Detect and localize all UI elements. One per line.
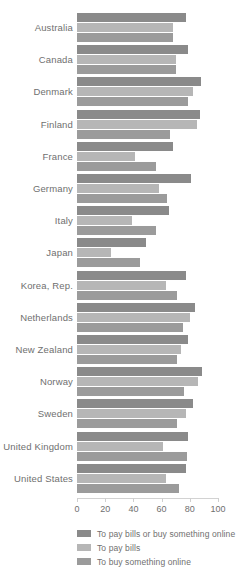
bar-chart: AustraliaCanadaDenmarkFinlandFranceGerma…	[0, 0, 240, 582]
x-axis-tick-label: 40	[118, 503, 148, 515]
legend-swatch	[77, 530, 91, 537]
bar-stack	[77, 13, 240, 43]
category-label: France	[0, 148, 73, 166]
bar-group: France	[0, 141, 240, 173]
bar	[77, 442, 163, 451]
bar	[77, 152, 135, 161]
bar	[77, 409, 186, 418]
bar	[77, 291, 177, 300]
legend-swatch	[77, 544, 91, 551]
bar-stack	[77, 399, 240, 429]
x-axis-tick	[218, 498, 219, 502]
bar-stack	[77, 271, 240, 301]
bar	[77, 377, 198, 386]
x-axis-tick-label: 60	[147, 503, 177, 515]
x-axis-tick	[77, 498, 78, 502]
x-axis-tick	[190, 498, 191, 502]
bar	[77, 258, 140, 267]
bar-group: Netherlands	[0, 302, 240, 334]
bar	[77, 345, 181, 354]
bar	[77, 248, 111, 257]
bar	[77, 281, 166, 290]
bar-stack	[77, 174, 240, 204]
bar	[77, 399, 193, 408]
bar	[77, 271, 186, 280]
bar	[77, 77, 201, 86]
bar-stack	[77, 432, 240, 462]
bar-stack	[77, 303, 240, 333]
bar	[77, 303, 195, 312]
bar	[77, 226, 156, 235]
bar	[77, 184, 159, 193]
bar-group: Germany	[0, 173, 240, 205]
x-axis-tick-label: 20	[90, 503, 120, 515]
legend-item: To pay bills or buy something online	[77, 528, 240, 540]
legend-item: To pay bills	[77, 542, 240, 554]
bar	[77, 206, 169, 215]
x-axis-tick-label: 100	[203, 503, 233, 515]
category-label: New Zealand	[0, 341, 73, 359]
bar-group: Australia	[0, 12, 240, 44]
x-axis-line	[77, 498, 218, 499]
category-label: Finland	[0, 116, 73, 134]
category-label: Netherlands	[0, 309, 73, 327]
bar-group: Denmark	[0, 76, 240, 108]
bar	[77, 474, 166, 483]
bar	[77, 45, 188, 54]
bar-group: Finland	[0, 109, 240, 141]
bar	[77, 142, 173, 151]
bar	[77, 97, 188, 106]
bar	[77, 23, 173, 32]
bar	[77, 174, 191, 183]
category-label: Italy	[0, 212, 73, 230]
bar	[77, 194, 167, 203]
category-label: Korea, Rep.	[0, 277, 73, 295]
bar-group: United Kingdom	[0, 431, 240, 463]
bar-group: Canada	[0, 44, 240, 76]
category-label: Canada	[0, 51, 73, 69]
x-axis-tick-label: 0	[62, 503, 92, 515]
bar-stack	[77, 464, 240, 494]
plot-area: AustraliaCanadaDenmarkFinlandFranceGerma…	[0, 0, 240, 498]
bar	[77, 238, 146, 247]
bar	[77, 355, 177, 364]
bar	[77, 33, 173, 42]
legend-label: To pay bills or buy something online	[97, 528, 235, 540]
bar	[77, 367, 202, 376]
bar-group: United States	[0, 463, 240, 495]
chart-legend: To pay bills or buy something onlineTo p…	[77, 528, 240, 570]
bar	[77, 387, 184, 396]
x-axis-tick	[162, 498, 163, 502]
bar-stack	[77, 45, 240, 75]
bar-stack	[77, 142, 240, 172]
bar	[77, 419, 177, 428]
bar-stack	[77, 110, 240, 140]
bar	[77, 464, 186, 473]
bar-group: Japan	[0, 237, 240, 269]
bar	[77, 335, 188, 344]
category-label: United States	[0, 470, 73, 488]
bar-stack	[77, 335, 240, 365]
x-axis-tick	[133, 498, 134, 502]
category-label: Germany	[0, 180, 73, 198]
category-label: Denmark	[0, 83, 73, 101]
bar-group: Italy	[0, 205, 240, 237]
bar-stack	[77, 206, 240, 236]
bar	[77, 87, 193, 96]
legend-label: To pay bills	[97, 542, 140, 554]
legend-label: To buy something online	[97, 556, 191, 568]
category-label: Japan	[0, 244, 73, 262]
category-label: Australia	[0, 19, 73, 37]
bar-group: Norway	[0, 366, 240, 398]
category-label: United Kingdom	[0, 438, 73, 456]
bar-group: New Zealand	[0, 334, 240, 366]
bar	[77, 432, 188, 441]
bar	[77, 162, 156, 171]
bar	[77, 110, 200, 119]
category-label: Norway	[0, 373, 73, 391]
bar	[77, 452, 187, 461]
bar	[77, 323, 183, 332]
legend-swatch	[77, 558, 91, 565]
category-label: Sweden	[0, 405, 73, 423]
bar	[77, 65, 176, 74]
